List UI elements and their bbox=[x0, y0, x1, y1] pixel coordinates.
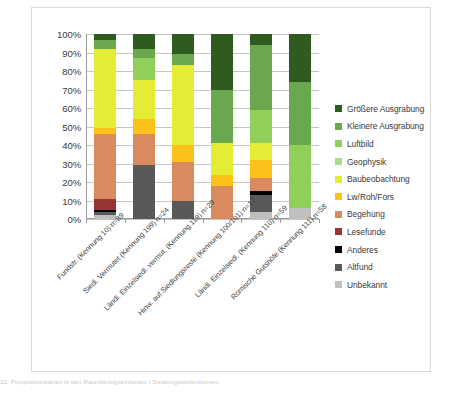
plot-area: 0%10%20%30%40%50%60%70%80%90%100% bbox=[86, 34, 319, 219]
bar-segment[interactable] bbox=[211, 34, 233, 90]
legend-swatch-icon bbox=[335, 281, 342, 288]
legend-item[interactable]: Lesefunde bbox=[335, 223, 455, 241]
bar-segment[interactable] bbox=[133, 134, 155, 165]
bar-segment[interactable] bbox=[211, 90, 233, 144]
legend-label: Größere Ausgrabung bbox=[347, 104, 424, 114]
bar-segment[interactable] bbox=[172, 65, 194, 145]
bar-segment[interactable] bbox=[133, 119, 155, 134]
y-axis-tick-label: 30% bbox=[62, 158, 81, 169]
stacked-bar[interactable] bbox=[250, 34, 272, 219]
bar-segment[interactable] bbox=[250, 178, 272, 191]
legend-item[interactable]: Lw/Roh/Fors bbox=[335, 188, 455, 206]
legend-label: Geophysik bbox=[347, 157, 386, 167]
x-axis-tick bbox=[125, 219, 126, 223]
legend-label: Lw/Roh/Fors bbox=[347, 192, 394, 202]
legend-swatch-icon bbox=[335, 105, 342, 112]
bar-segment[interactable] bbox=[133, 165, 155, 219]
chart-legend: Größere AusgrabungKleinere AusgrabungLuf… bbox=[335, 100, 455, 294]
y-axis-tick-label: 40% bbox=[62, 140, 81, 151]
legend-item[interactable]: Größere Ausgrabung bbox=[335, 100, 455, 118]
x-axis-tick bbox=[164, 219, 165, 223]
x-axis-tick bbox=[86, 219, 87, 223]
legend-swatch-icon bbox=[335, 264, 342, 271]
stacked-bar[interactable] bbox=[172, 34, 194, 219]
legend-item[interactable]: Geophysik bbox=[335, 153, 455, 171]
bar-segment[interactable] bbox=[94, 199, 116, 210]
bar-segment[interactable] bbox=[94, 49, 116, 129]
legend-swatch-icon bbox=[335, 228, 342, 235]
bar-segment[interactable] bbox=[94, 40, 116, 49]
bar-segment[interactable] bbox=[250, 45, 272, 110]
stacked-bar[interactable] bbox=[289, 34, 311, 219]
legend-swatch-icon bbox=[335, 158, 342, 165]
legend-item[interactable]: Begehung bbox=[335, 206, 455, 224]
bar-segment[interactable] bbox=[172, 145, 194, 162]
bar-segment[interactable] bbox=[289, 34, 311, 82]
bar-segment[interactable] bbox=[289, 145, 311, 208]
bar-segment[interactable] bbox=[211, 143, 233, 174]
legend-item[interactable]: Luftbild bbox=[335, 135, 455, 153]
y-axis-tick-label: 100% bbox=[57, 29, 81, 40]
bar-column[interactable] bbox=[86, 34, 125, 219]
legend-label: Begehung bbox=[347, 209, 385, 219]
bar-segment[interactable] bbox=[133, 49, 155, 58]
bar-column[interactable] bbox=[241, 34, 280, 219]
legend-swatch-icon bbox=[335, 193, 342, 200]
legend-label: Unbekannt bbox=[347, 280, 387, 290]
x-axis-tick bbox=[203, 219, 204, 223]
bar-series-group bbox=[86, 34, 319, 219]
bar-segment[interactable] bbox=[94, 134, 116, 199]
bar-segment[interactable] bbox=[133, 80, 155, 119]
legend-swatch-icon bbox=[335, 123, 342, 130]
bar-column[interactable] bbox=[280, 34, 319, 219]
stacked-bar[interactable] bbox=[133, 34, 155, 219]
legend-label: Lesefunde bbox=[347, 227, 386, 237]
chart-container: 0%10%20%30%40%50%60%70%80%90%100% Fundst… bbox=[31, 7, 431, 372]
y-axis-tick-label: 20% bbox=[62, 177, 81, 188]
y-axis-tick-label: 80% bbox=[62, 66, 81, 77]
bar-segment[interactable] bbox=[211, 175, 233, 186]
bar-segment[interactable] bbox=[289, 82, 311, 145]
bar-segment[interactable] bbox=[250, 110, 272, 143]
y-axis-tick-label: 90% bbox=[62, 47, 81, 58]
legend-item[interactable]: Kleinere Ausgrabung bbox=[335, 118, 455, 136]
bar-column[interactable] bbox=[125, 34, 164, 219]
x-axis-tick bbox=[280, 219, 281, 223]
figure-caption: 22: Prospektionsarten in den Raumbezugse… bbox=[0, 378, 462, 385]
stacked-bar[interactable] bbox=[211, 34, 233, 219]
stacked-bar[interactable] bbox=[94, 34, 116, 219]
legend-item[interactable]: Baubeobachtung bbox=[335, 170, 455, 188]
x-axis-tick bbox=[241, 219, 242, 223]
bar-column[interactable] bbox=[203, 34, 242, 219]
bar-segment[interactable] bbox=[250, 160, 272, 179]
y-axis-tick-label: 10% bbox=[62, 195, 81, 206]
legend-label: Anderes bbox=[347, 245, 378, 255]
legend-label: Luftbild bbox=[347, 139, 374, 149]
bar-segment[interactable] bbox=[250, 143, 272, 160]
bar-segment[interactable] bbox=[172, 54, 194, 65]
y-axis-tick-label: 50% bbox=[62, 121, 81, 132]
legend-swatch-icon bbox=[335, 140, 342, 147]
legend-swatch-icon bbox=[335, 211, 342, 218]
legend-label: Altfund bbox=[347, 262, 373, 272]
chart-screenshot: 0%10%20%30%40%50%60%70%80%90%100% Fundst… bbox=[0, 0, 462, 395]
x-axis-category-label: Fundstr. (Kennung 10) n=89 bbox=[55, 211, 126, 282]
bar-column[interactable] bbox=[164, 34, 203, 219]
plot-inner: 0%10%20%30%40%50%60%70%80%90%100% bbox=[86, 34, 319, 219]
bar-segment[interactable] bbox=[172, 34, 194, 54]
legend-item[interactable]: Anderes bbox=[335, 241, 455, 259]
legend-label: Baubeobachtung bbox=[347, 174, 410, 184]
legend-item[interactable]: Altfund bbox=[335, 258, 455, 276]
legend-swatch-icon bbox=[335, 246, 342, 253]
y-axis-tick-label: 60% bbox=[62, 103, 81, 114]
x-axis-tick bbox=[319, 219, 320, 223]
bar-segment[interactable] bbox=[250, 34, 272, 45]
bar-segment[interactable] bbox=[133, 58, 155, 80]
legend-item[interactable]: Unbekannt bbox=[335, 276, 455, 294]
bar-segment[interactable] bbox=[172, 162, 194, 201]
bar-segment[interactable] bbox=[133, 34, 155, 49]
y-axis-tick-label: 0% bbox=[67, 214, 81, 225]
legend-swatch-icon bbox=[335, 176, 342, 183]
legend-label: Kleinere Ausgrabung bbox=[347, 121, 424, 131]
y-axis-tick-label: 70% bbox=[62, 84, 81, 95]
